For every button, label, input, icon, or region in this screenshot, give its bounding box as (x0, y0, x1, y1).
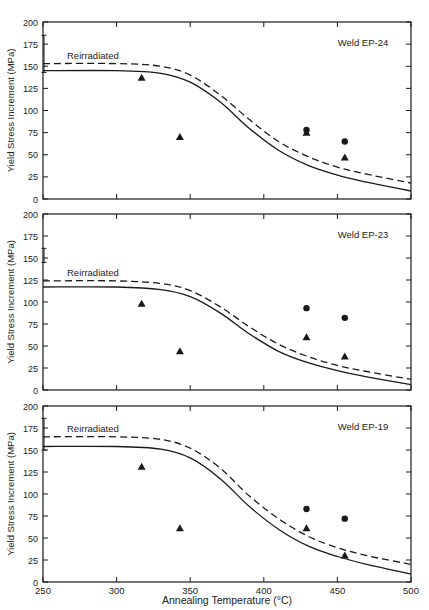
y-tick-label: 175 (23, 40, 38, 50)
triangle-marker (176, 524, 184, 531)
y-tick-label: 175 (23, 424, 38, 434)
y-tick-label: 125 (23, 276, 38, 286)
triangle-marker (302, 524, 310, 531)
circle-marker (342, 315, 348, 321)
y-axis-label: Yield Stress Increment (MPa) (5, 432, 16, 556)
chart-panel-1: 0255075100125150175200Yield Stress Incre… (5, 18, 411, 205)
error-bar (42, 35, 47, 72)
panel-title: Weld EP-23 (338, 229, 389, 240)
triangle-marker (341, 353, 349, 360)
y-tick-label: 25 (28, 364, 38, 374)
reirradiated-label: Reirradiated (67, 267, 119, 278)
triangle-marker (302, 333, 310, 340)
y-tick-label: 0 (33, 386, 38, 396)
y-tick-label: 100 (23, 106, 38, 116)
recovery-curve (43, 70, 411, 191)
y-tick-label: 25 (28, 556, 38, 566)
y-tick-label: 200 (23, 402, 38, 412)
panel-title: Weld EP-19 (338, 421, 389, 432)
y-tick-label: 75 (28, 512, 38, 522)
chart-panel-3: 0255075100125150175200250300350400450500… (5, 402, 419, 597)
reirradiated-label: Reirradiated (67, 50, 119, 61)
triangle-marker (138, 300, 146, 307)
circle-marker (303, 305, 309, 311)
y-tick-label: 150 (23, 254, 38, 264)
error-bar (42, 248, 47, 262)
reirradiated-curve (43, 437, 411, 565)
y-tick-label: 0 (33, 195, 38, 205)
y-tick-label: 125 (23, 84, 38, 94)
y-tick-label: 50 (28, 342, 38, 352)
y-tick-label: 100 (23, 490, 38, 500)
chart-panel-2: 0255075100125150175200Yield Stress Incre… (5, 210, 411, 396)
y-tick-label: 125 (23, 468, 38, 478)
figure: 0255075100125150175200Yield Stress Incre… (0, 0, 429, 610)
triangle-marker (138, 74, 146, 81)
y-axis-label: Yield Stress Increment (MPa) (5, 240, 16, 364)
y-tick-label: 200 (23, 210, 38, 220)
y-tick-label: 200 (23, 18, 38, 28)
y-tick-label: 50 (28, 150, 38, 160)
y-tick-label: 50 (28, 534, 38, 544)
y-tick-label: 100 (23, 298, 38, 308)
y-tick-label: 75 (28, 128, 38, 138)
triangle-marker (341, 153, 349, 160)
circle-marker (342, 515, 348, 521)
reirradiated-curve (43, 281, 411, 380)
error-bar (42, 418, 47, 450)
panel-title: Weld EP-24 (338, 37, 389, 48)
y-tick-label: 175 (23, 232, 38, 242)
panels-container: 0255075100125150175200Yield Stress Incre… (5, 18, 419, 597)
reirradiated-curve (43, 63, 411, 183)
plot-frame (43, 214, 411, 390)
circle-marker (303, 127, 309, 133)
triangle-marker (341, 552, 349, 559)
x-tick-label: 250 (35, 585, 51, 596)
circle-marker (342, 138, 348, 144)
triangle-marker (138, 463, 146, 470)
x-tick-label: 300 (109, 585, 125, 596)
reirradiated-label: Reirradiated (67, 423, 119, 434)
y-tick-label: 25 (28, 172, 38, 182)
triangle-marker (176, 347, 184, 354)
recovery-curve (43, 446, 411, 574)
x-tick-label: 500 (403, 585, 419, 596)
y-tick-label: 150 (23, 446, 38, 456)
y-tick-label: 75 (28, 320, 38, 330)
circle-marker (303, 506, 309, 512)
x-axis-label: Annealing Temperature (°C) (162, 594, 292, 606)
x-tick-label: 450 (329, 585, 345, 596)
y-axis-label: Yield Stress Increment (MPa) (5, 49, 16, 173)
y-tick-label: 150 (23, 62, 38, 72)
triangle-marker (176, 133, 184, 140)
